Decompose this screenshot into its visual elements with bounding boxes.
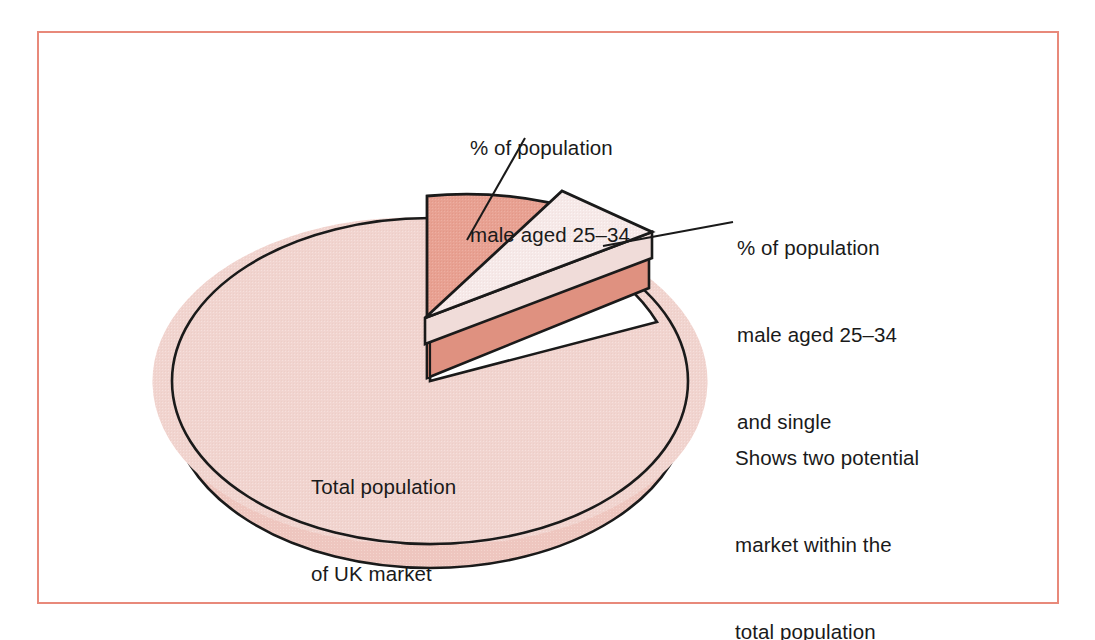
label-male-2534-line2: male aged 25–34 [470, 220, 630, 249]
label-note-line1: Shows two potential [735, 443, 919, 472]
figure-root: % of population male aged 25–34 % of pop… [0, 0, 1095, 640]
label-total-pop-line2: of UK market [311, 559, 456, 588]
label-explanatory-note: Shows two potential market within the to… [735, 385, 919, 640]
label-male-2534-line1: % of population [470, 133, 630, 162]
label-total-population: Total population of UK market [311, 414, 456, 640]
label-male-aged-25-34: % of population male aged 25–34 [470, 75, 630, 307]
label-note-line2: market within the [735, 530, 919, 559]
label-note-line3: total population [735, 617, 919, 640]
label-male-single-line2: male aged 25–34 [737, 320, 897, 349]
label-total-pop-line1: Total population [311, 472, 456, 501]
label-male-single-line1: % of population [737, 233, 897, 262]
